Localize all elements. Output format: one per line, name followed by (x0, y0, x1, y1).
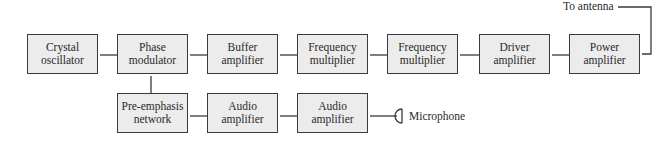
block-label: Audio (318, 100, 347, 113)
block-label: Phase (139, 41, 166, 54)
block-label: Buffer (228, 41, 258, 54)
block-label: Driver (499, 41, 529, 54)
block-crystal-oscillator: Crystal oscillator (27, 34, 98, 74)
block-frequency-multiplier-1: Frequency multiplier (297, 34, 368, 74)
microphone-icon (396, 109, 406, 123)
block-label: Frequency (398, 41, 447, 54)
block-label: Pre-emphasis (122, 100, 184, 113)
block-label: multiplier (400, 54, 445, 67)
block-frequency-multiplier-2: Frequency multiplier (387, 34, 458, 74)
block-label: Audio (228, 100, 257, 113)
block-label: modulator (129, 54, 176, 67)
block-label: Power (590, 41, 619, 54)
block-label: Frequency (308, 41, 357, 54)
block-buffer-amplifier: Buffer amplifier (207, 34, 278, 74)
block-pre-emphasis-network: Pre-emphasis network (117, 93, 188, 133)
block-label: amplifier (311, 113, 353, 126)
block-label: amplifier (221, 113, 263, 126)
block-label: amplifier (221, 54, 263, 67)
block-label: network (134, 113, 172, 126)
block-audio-amplifier-2: Audio amplifier (297, 93, 368, 133)
block-label: amplifier (493, 54, 535, 67)
block-label: amplifier (583, 54, 625, 67)
block-power-amplifier: Power amplifier (569, 34, 640, 74)
block-label: multiplier (310, 54, 355, 67)
block-label: Crystal (46, 41, 79, 54)
block-audio-amplifier-1: Audio amplifier (207, 93, 278, 133)
block-driver-amplifier: Driver amplifier (479, 34, 550, 74)
microphone-label: Microphone (409, 110, 465, 123)
antenna-label: To antenna (563, 0, 614, 13)
block-label: oscillator (41, 54, 84, 67)
block-phase-modulator: Phase modulator (117, 34, 188, 74)
